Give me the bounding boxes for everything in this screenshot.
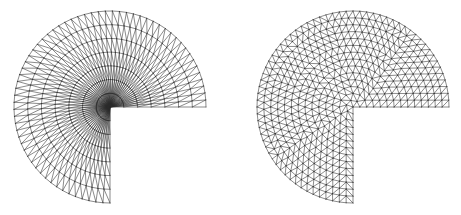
mesh-boundary-arc: [295, 184, 301, 188]
mesh-edge: [329, 73, 334, 78]
mesh-edge: [305, 109, 311, 114]
mesh-edge: [346, 95, 351, 100]
mesh-edge: [283, 136, 291, 138]
mesh-edge: [339, 53, 343, 61]
mesh-edge: [283, 132, 289, 136]
mesh-edge: [398, 38, 400, 48]
mesh-ring-edge: [55, 168, 60, 172]
mesh-edge: [292, 138, 301, 140]
mesh-ring-edge: [184, 72, 186, 78]
mesh-ring-edge: [58, 124, 59, 128]
mesh-edge: [320, 152, 321, 160]
mesh-edge: [292, 98, 299, 100]
mesh-edge: [302, 163, 303, 171]
mesh-edge: [284, 56, 288, 62]
mesh-edge: [417, 45, 422, 50]
mesh-diagonal: [119, 11, 124, 25]
mesh-ring-edge: [131, 72, 134, 74]
mesh-edge: [344, 87, 351, 89]
mesh-edge: [392, 87, 397, 93]
mesh-edge: [339, 46, 346, 47]
mesh-edge: [405, 26, 407, 35]
mesh-edge: [411, 87, 413, 94]
mesh-edge: [426, 80, 431, 86]
mesh-boundary-arc: [333, 12, 340, 13]
mesh-edge: [382, 88, 385, 94]
mesh-edge: [433, 67, 436, 73]
mesh-edge: [257, 114, 264, 116]
mesh-edge: [373, 58, 377, 64]
mesh-edge: [346, 52, 351, 59]
mesh-edge: [333, 194, 340, 195]
mesh-edge: [322, 126, 324, 134]
mesh-edge: [291, 107, 298, 112]
mesh-edge: [404, 40, 412, 42]
mesh-edge: [311, 142, 316, 147]
mesh-edge: [373, 63, 375, 72]
mesh-edge: [272, 87, 273, 94]
mesh-edge: [326, 49, 332, 52]
mesh-edge: [394, 44, 396, 54]
mesh-edge: [326, 165, 332, 170]
mesh-edge: [346, 141, 353, 149]
mesh-diagonal: [105, 175, 110, 189]
mesh-edge: [339, 19, 341, 26]
mesh-edge: [319, 109, 325, 113]
mesh-edge: [360, 46, 364, 54]
mesh-edge: [314, 159, 320, 163]
mesh-ring-edge: [69, 114, 70, 117]
mesh-edge: [355, 80, 357, 87]
mesh-edge: [344, 32, 349, 39]
mesh-boundary-arc: [165, 29, 171, 33]
mesh-edge: [320, 155, 327, 159]
mesh-edge: [316, 147, 321, 151]
mesh-edge: [422, 100, 429, 107]
mesh-edge: [346, 182, 353, 189]
mesh-edge: [320, 167, 326, 170]
mesh-edge: [270, 69, 273, 75]
mesh-edge: [339, 47, 344, 53]
mesh-edge: [396, 48, 400, 54]
mesh-edge: [428, 74, 430, 80]
mesh-edge: [301, 125, 309, 127]
mesh-boundary-arc: [63, 191, 69, 194]
mesh-diagonal: [73, 135, 80, 147]
mesh-ring-edge: [91, 69, 94, 70]
mesh-edge: [288, 56, 295, 58]
mesh-diagonal: [178, 48, 185, 61]
mesh-edge: [390, 49, 392, 59]
mesh-edge: [292, 46, 297, 51]
mesh-edge: [391, 59, 396, 64]
mesh-edge: [339, 107, 341, 114]
mesh-edge: [278, 105, 285, 110]
mesh-edge: [334, 92, 338, 98]
mesh-edge: [305, 100, 312, 102]
mesh-boundary-arc: [65, 19, 71, 22]
mesh-edge: [299, 114, 305, 118]
mesh-edge: [295, 30, 297, 37]
mesh-edge: [295, 54, 300, 59]
mesh-edge: [421, 93, 427, 100]
mesh-edge: [279, 57, 284, 62]
mesh-edge: [302, 33, 303, 42]
mesh-edge: [333, 47, 340, 49]
mesh-edge: [358, 32, 363, 38]
mesh-edge: [338, 92, 341, 100]
mesh-edge: [314, 179, 320, 182]
mesh-ring-edge: [146, 87, 147, 90]
mesh-edge: [313, 116, 315, 123]
mesh-edge: [394, 38, 398, 44]
mesh-edge: [310, 41, 316, 45]
mesh-edge: [292, 138, 295, 144]
mesh-edge: [342, 19, 347, 25]
mesh-ring-edge: [136, 75, 138, 77]
mesh-edge: [336, 85, 338, 92]
mesh-edge: [292, 159, 298, 163]
mesh-edge: [313, 96, 319, 101]
mesh-edge: [264, 114, 271, 116]
mesh-ring-edge: [85, 72, 88, 74]
mesh-edge: [333, 49, 338, 55]
mesh-edge: [307, 56, 309, 63]
mesh-boundary-arc: [78, 14, 85, 16]
mesh-edge: [400, 46, 409, 47]
